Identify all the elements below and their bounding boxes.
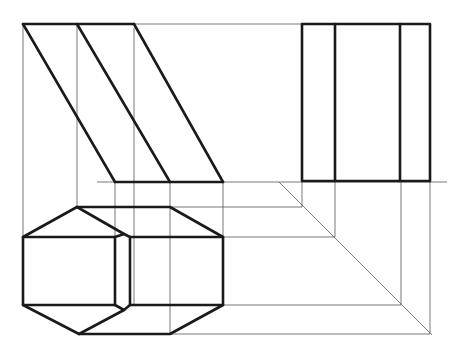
- projection-drawing: [0, 0, 457, 355]
- side-view: [302, 24, 430, 181]
- construction-lines: [23, 24, 447, 335]
- front-view: [23, 24, 223, 182]
- top-view: [23, 207, 223, 334]
